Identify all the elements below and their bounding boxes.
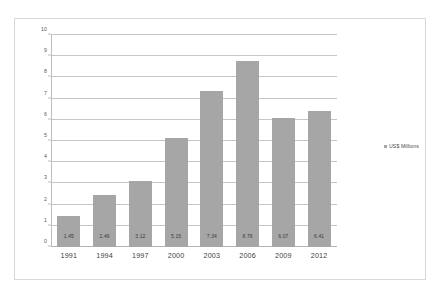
bar-slot: 2.46 bbox=[87, 35, 123, 247]
bar-slot: 5.15 bbox=[158, 35, 194, 247]
bar-slot: 6.07 bbox=[266, 35, 302, 247]
x-tick-label: 2000 bbox=[158, 251, 194, 260]
chart-legend: US$ Millions bbox=[384, 143, 419, 149]
x-tick-label: 2006 bbox=[230, 251, 266, 260]
bar-value-label: 6.41 bbox=[314, 233, 324, 239]
chart-frame: 012345678910 1.452.463.125.157.348.766.0… bbox=[14, 18, 426, 280]
legend-swatch-us-millions bbox=[384, 145, 387, 148]
bar-value-label: 8.76 bbox=[243, 233, 253, 239]
y-tick-label: 9 bbox=[44, 47, 47, 53]
bar[interactable]: 1.45 bbox=[57, 216, 80, 247]
y-tick-label: 2 bbox=[44, 196, 47, 202]
y-tick-label: 4 bbox=[44, 153, 47, 159]
y-tick-label: 8 bbox=[44, 68, 47, 74]
bar-value-label: 7.34 bbox=[207, 233, 217, 239]
bar-slot: 6.41 bbox=[301, 35, 337, 247]
bar-value-label: 2.46 bbox=[100, 233, 110, 239]
x-tick-label: 1991 bbox=[51, 251, 87, 260]
bar[interactable]: 2.46 bbox=[93, 195, 116, 247]
y-tick-label: 7 bbox=[44, 90, 47, 96]
y-tick-label: 0 bbox=[44, 238, 47, 244]
y-tick-label: 6 bbox=[44, 111, 47, 117]
bar-series: 1.452.463.125.157.348.766.076.41 bbox=[51, 35, 337, 247]
bar[interactable]: 7.34 bbox=[200, 91, 223, 247]
bar-value-label: 3.12 bbox=[135, 233, 145, 239]
bar-value-label: 6.07 bbox=[278, 233, 288, 239]
y-tick-label: 10 bbox=[41, 26, 47, 32]
y-tick-label: 1 bbox=[44, 217, 47, 223]
y-tick-label: 3 bbox=[44, 174, 47, 180]
x-axis-tick-labels: 19911994199720002003200620092012 bbox=[51, 251, 337, 267]
x-tick-label: 1997 bbox=[123, 251, 159, 260]
x-tick-label: 2003 bbox=[194, 251, 230, 260]
bar[interactable]: 6.07 bbox=[272, 118, 295, 247]
bar-slot: 8.76 bbox=[230, 35, 266, 247]
bar-slot: 3.12 bbox=[123, 35, 159, 247]
y-tick-label: 5 bbox=[44, 132, 47, 138]
bar[interactable]: 8.76 bbox=[236, 61, 259, 247]
x-tick-label: 2009 bbox=[266, 251, 302, 260]
bar-slot: 7.34 bbox=[194, 35, 230, 247]
x-tick-label: 1994 bbox=[87, 251, 123, 260]
bar[interactable]: 5.15 bbox=[165, 138, 188, 247]
bar-value-label: 1.45 bbox=[64, 233, 74, 239]
plot-area: 012345678910 1.452.463.125.157.348.766.0… bbox=[51, 35, 337, 247]
bar-slot: 1.45 bbox=[51, 35, 87, 247]
legend-label-us-millions: US$ Millions bbox=[389, 143, 419, 149]
bar[interactable]: 3.12 bbox=[129, 181, 152, 247]
bar[interactable]: 6.41 bbox=[308, 111, 331, 247]
x-tick-label: 2012 bbox=[301, 251, 337, 260]
bar-value-label: 5.15 bbox=[171, 233, 181, 239]
